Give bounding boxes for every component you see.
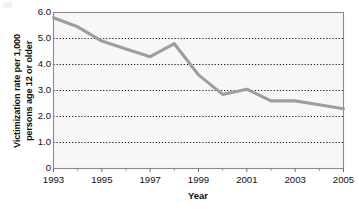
x-tick-label-1993: 1993 [34,174,74,185]
x-axis-tick-labels: 1993199519971999200120032005 [0,171,351,187]
x-tick-label-2001: 2001 [227,174,267,185]
x-axis-label: Year [53,190,343,201]
x-tick-label-2005: 2005 [324,174,359,185]
x-tick-label-1995: 1995 [82,174,122,185]
x-tick-label-1997: 1997 [130,174,170,185]
x-tick-label-2003: 2003 [275,174,315,185]
x-tick-label-1999: 1999 [179,174,219,185]
